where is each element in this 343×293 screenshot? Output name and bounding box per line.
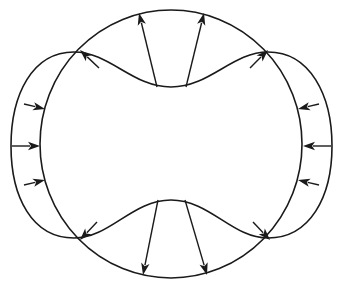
deformation-diagram	[0, 0, 343, 293]
arrow-shaft	[145, 200, 158, 265]
arrow-shaft	[24, 104, 35, 107]
arrow-bottom-left-vertical	[141, 200, 158, 275]
arrow-shaft	[24, 182, 35, 185]
arrow-shaft	[185, 200, 204, 265]
arrow-upper-left-diagonal	[80, 50, 99, 68]
peanut-contour	[11, 52, 332, 238]
arrow-right-middle	[303, 142, 331, 150]
arrow-shaft	[186, 23, 202, 87]
arrow-top-left-vertical	[138, 13, 157, 87]
arrow-right-lower	[298, 179, 319, 187]
arrow-shaft	[141, 23, 157, 87]
arrow-left-upper	[24, 102, 45, 110]
arrow-shaft	[87, 222, 97, 233]
diagram-canvas	[0, 0, 343, 293]
arrow-shaft	[308, 104, 319, 107]
arrow-left-lower	[24, 179, 45, 187]
arrow-shaft	[87, 57, 99, 68]
arrow-left-middle	[12, 142, 40, 150]
arrow-lower-left-diagonal	[80, 222, 97, 240]
arrow-shaft	[250, 57, 261, 68]
arrow-bottom-right-vertical	[185, 200, 208, 275]
arrow-shaft	[308, 182, 319, 185]
arrow-shaft	[253, 222, 263, 233]
arrow-top-right-vertical	[186, 13, 205, 87]
arrow-right-upper	[298, 102, 319, 110]
